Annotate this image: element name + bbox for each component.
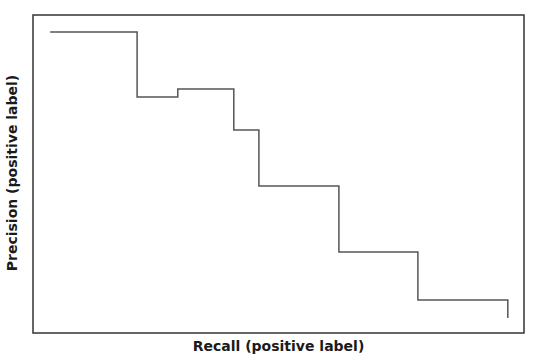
pr-curve-chart [0,0,538,362]
plot-frame [33,15,524,333]
precision-recall-curve [50,32,508,318]
y-axis-label: Precision (positive label) [4,15,20,331]
x-axis-label: Recall (positive label) [33,338,524,354]
